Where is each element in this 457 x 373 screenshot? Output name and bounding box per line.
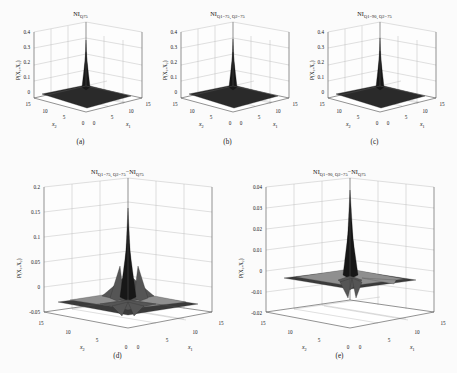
panel-e-plot bbox=[262, 178, 442, 348]
panel-c-zlabel: P(X₁,X₂) bbox=[309, 61, 315, 80]
panel-d-plot bbox=[40, 178, 220, 348]
panel-d-xlabel-x2: x2 bbox=[80, 344, 85, 352]
panel-d-zlabel: P(X₁,X₂) bbox=[16, 259, 22, 278]
panel-c-xlabel-x1: x1 bbox=[420, 121, 425, 129]
panel-c: NIQ1=90, Q2=75 0.4 0.3 0.2 0.1 0 P(X₁,X₂… bbox=[302, 8, 447, 133]
panel-e-z-ticks: 0.04 0.03 0.02 0.01 0 -0.01 -0.02 bbox=[232, 168, 262, 358]
panel-b-caption: (b) bbox=[155, 138, 300, 146]
panel-d-caption: (d) bbox=[10, 352, 225, 360]
panel-a: NIQ75 0.4 0.3 0.2 0.1 0 P(X₁,X₂) bbox=[8, 8, 153, 133]
panel-e: NIQ1=90, Q2=75−NIQ75 0.04 0.03 0.02 0.01… bbox=[232, 168, 447, 358]
panel-b-zlabel: P(X₁,X₂) bbox=[162, 61, 168, 80]
panel-a-xlabel-x2: x2 bbox=[52, 121, 57, 129]
panel-a-xlabel-x1: x1 bbox=[126, 121, 131, 129]
panel-d-xlabel-x1: x1 bbox=[188, 344, 193, 352]
panel-e-caption: (e) bbox=[232, 352, 447, 360]
panel-e-zlabel: P(X₁,X₂) bbox=[238, 259, 244, 278]
panel-b-xlabel-x2: x2 bbox=[199, 121, 204, 129]
panel-d: NIQ1=75, Q2=75−NIQ75 0.2 0.15 0.1 0.05 0… bbox=[10, 168, 225, 358]
panel-c-caption: (c) bbox=[302, 138, 447, 146]
panel-e-xlabel-x1: x1 bbox=[410, 344, 415, 352]
panel-b-xlabel-x1: x1 bbox=[273, 121, 278, 129]
panel-a-zlabel: P(X₁,X₂) bbox=[15, 61, 21, 80]
panel-d-z-ticks: 0.2 0.15 0.1 0.05 0 -0.05 bbox=[10, 168, 40, 358]
panel-b: NIQ1=75, Q2=75 0.4 0.3 0.2 0.1 0 P(X₁,X₂… bbox=[155, 8, 300, 133]
panel-a-caption: (a) bbox=[8, 138, 153, 146]
panel-e-title: NIQ1=90, Q2=75−NIQ75 bbox=[232, 168, 447, 177]
panel-c-xlabel-x2: x2 bbox=[346, 121, 351, 129]
panel-e-xlabel-x2: x2 bbox=[302, 344, 307, 352]
panel-d-title: NIQ1=75, Q2=75−NIQ75 bbox=[10, 168, 225, 177]
figure-container: NIQ75 0.4 0.3 0.2 0.1 0 P(X₁,X₂) bbox=[0, 0, 457, 373]
